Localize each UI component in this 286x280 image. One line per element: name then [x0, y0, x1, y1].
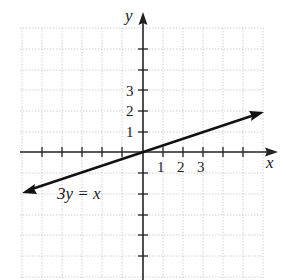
y-axis-label: y [123, 6, 133, 25]
y-tick-label-3: 3 [126, 83, 134, 99]
coordinate-plane: y x 1 2 3 1 2 3 3y = x [0, 0, 286, 280]
equation-label: 3y = x [56, 184, 101, 203]
y-tick-label-1: 1 [126, 124, 134, 140]
x-tick-label-1: 1 [157, 159, 165, 175]
x-axis-label: x [265, 153, 274, 172]
x-tick-label-2: 2 [177, 159, 185, 175]
y-tick-label-2: 2 [126, 103, 134, 119]
x-tick-label-3: 3 [197, 159, 205, 175]
